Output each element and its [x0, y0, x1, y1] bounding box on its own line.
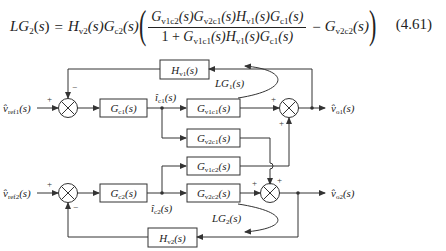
- signal-vref1: v̂ref1(s): [3, 102, 31, 116]
- sign-sum1-plus: +: [47, 94, 52, 104]
- signal-ic2: îc2(s): [151, 202, 173, 216]
- summer-out-1: [280, 99, 299, 118]
- wire-gv2c1-a: [240, 138, 270, 163]
- node-vo2: [296, 191, 300, 195]
- signal-vo1: v̂o1(s): [331, 102, 355, 116]
- wire-ic1-to-gv2c1: [162, 108, 186, 138]
- sign-sumo2-plus-top: +: [277, 175, 282, 185]
- label-lg2: LG2(s): [211, 212, 242, 226]
- node-ic2: [160, 191, 164, 195]
- summer-1: [59, 99, 78, 118]
- node-ic1: [160, 106, 164, 110]
- signal-ic1: îc1(s): [155, 91, 177, 105]
- label-gc2: Gc2(s): [110, 187, 137, 201]
- label-gc1: Gc1(s): [110, 102, 137, 116]
- sign-sumo1-plus-bottom: +: [279, 118, 284, 128]
- label-lg1: LG1(s): [214, 77, 245, 91]
- signal-vo2: v̂o2(s): [331, 187, 355, 201]
- wire-hv1-to-sum1: [68, 69, 160, 98]
- sign-sumo1-plus-left: +: [271, 94, 276, 104]
- wire-hv2-to-sum2: [68, 203, 148, 237]
- sign-sum1-minus: −: [72, 82, 77, 92]
- sign-sum2-plus: +: [47, 179, 52, 189]
- summer-out-2: [261, 184, 280, 203]
- wire-ic2-to-gv1c2: [162, 166, 186, 193]
- loop-arrow-lg2: [238, 204, 278, 232]
- label-gv2c1: Gv2c1(s): [197, 132, 231, 146]
- label-hv1: Hv1(s): [170, 64, 198, 78]
- label-gv1c2: Gv1c2(s): [197, 160, 231, 174]
- label-gv2c2: Gv2c2(s): [197, 187, 231, 201]
- label-hv2: Hv2(s): [158, 232, 186, 246]
- summer-2: [59, 184, 78, 203]
- sign-sumo2-plus-left: +: [252, 178, 257, 188]
- block-diagram: Hv1(s) Gc1(s) Gv1c1(s) Gv2c1(s) Gv1c2(s)…: [0, 0, 446, 251]
- node-vo1: [310, 106, 314, 110]
- signal-vref2: v̂ref2(s): [3, 187, 31, 201]
- label-gv1c1: Gv1c1(s): [197, 102, 231, 116]
- sign-sum2-minus: −: [73, 202, 78, 212]
